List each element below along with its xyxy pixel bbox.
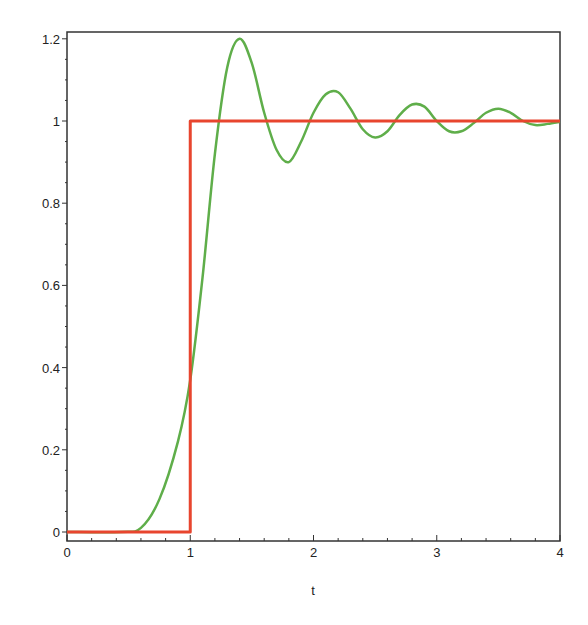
x-tick-label: 0 bbox=[63, 545, 70, 560]
step-input-line bbox=[67, 121, 560, 532]
axes bbox=[62, 32, 560, 541]
response-line bbox=[67, 39, 560, 533]
y-tick-label: 0.8 bbox=[42, 196, 60, 211]
step-response-chart: 0123400.20.40.60.811.2 t bbox=[0, 0, 588, 625]
x-tick-label: 4 bbox=[556, 545, 563, 560]
y-tick-label: 1.2 bbox=[42, 32, 60, 47]
x-tick-label: 2 bbox=[310, 545, 317, 560]
y-tick-label: 0 bbox=[53, 525, 60, 540]
x-tick-label: 1 bbox=[187, 545, 194, 560]
y-tick-label: 0.6 bbox=[42, 278, 60, 293]
y-tick-label: 0.4 bbox=[42, 361, 60, 376]
y-tick-label: 0.2 bbox=[42, 443, 60, 458]
series-layer bbox=[67, 39, 560, 533]
tick-labels: 0123400.20.40.60.811.2 bbox=[42, 32, 564, 560]
x-tick-label: 3 bbox=[433, 545, 440, 560]
x-axis-label: t bbox=[311, 583, 315, 598]
plot-frame bbox=[67, 32, 560, 541]
y-tick-label: 1 bbox=[53, 114, 60, 129]
